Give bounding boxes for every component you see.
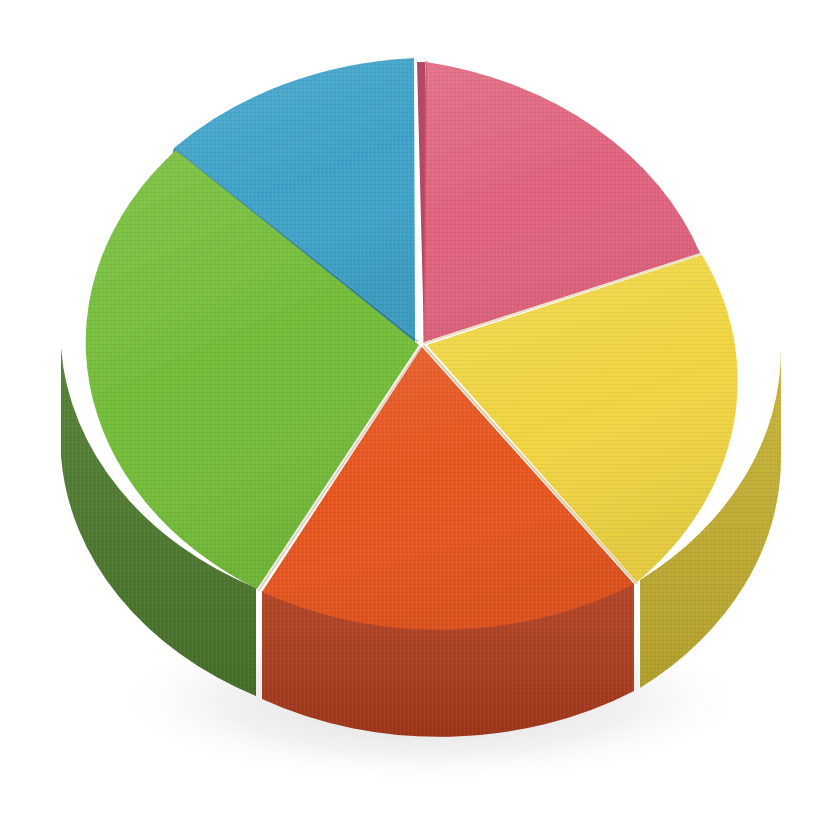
pie-chart-figure: A five-slice three-dimensional pie chart… xyxy=(0,0,835,821)
pie-chart-svg xyxy=(0,0,835,821)
